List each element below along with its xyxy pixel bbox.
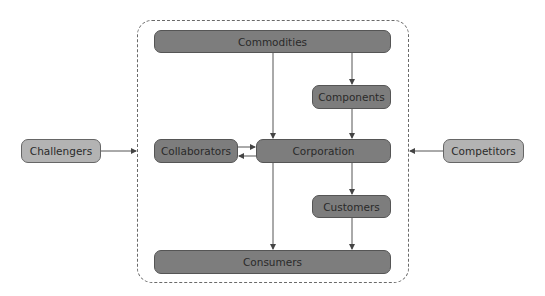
node-label: Competitors <box>451 145 515 157</box>
node-competitors: Competitors <box>443 139 524 163</box>
node-label: Consumers <box>243 256 302 268</box>
node-label: Corporation <box>292 145 354 157</box>
node-consumers: Consumers <box>154 250 391 274</box>
node-customers: Customers <box>312 195 391 218</box>
node-label: Collaborators <box>161 145 231 157</box>
node-corporation: Corporation <box>256 139 391 163</box>
node-label: Customers <box>323 201 379 213</box>
node-challengers: Challengers <box>21 139 101 163</box>
node-components: Components <box>312 85 391 109</box>
node-label: Commodities <box>238 36 307 48</box>
node-collaborators: Collaborators <box>154 139 238 163</box>
node-commodities: Commodities <box>154 30 391 53</box>
node-label: Challengers <box>30 145 92 157</box>
node-label: Components <box>318 91 384 103</box>
